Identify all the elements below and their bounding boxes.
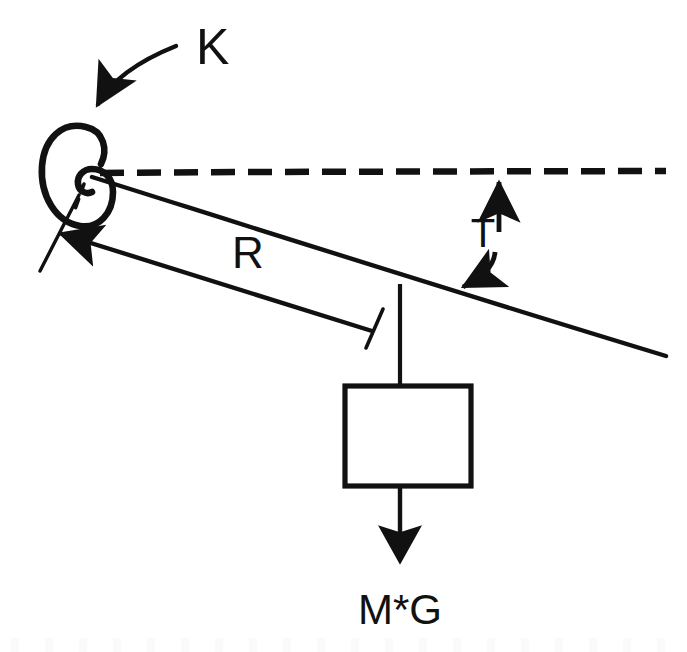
mass-block-group bbox=[345, 386, 471, 486]
radius-dimension-group: R bbox=[40, 195, 383, 348]
label-angle: T bbox=[471, 211, 495, 255]
dimension-tick-pivot bbox=[40, 195, 79, 271]
mass-block bbox=[345, 386, 471, 486]
angle-arrow-down bbox=[463, 252, 495, 287]
rigid-rod-group bbox=[92, 177, 666, 356]
rigid-rod bbox=[92, 177, 666, 356]
horizontal-reference-line-group bbox=[100, 171, 666, 173]
weight-force-group: M*G bbox=[358, 486, 442, 633]
label-radius: R bbox=[232, 228, 264, 277]
k-callout-group: K bbox=[98, 19, 229, 104]
mechanics-diagram-canvas: K R T M*G bbox=[0, 0, 687, 652]
diagram-root: K R T M*G bbox=[0, 0, 687, 652]
label-weight: M*G bbox=[358, 586, 442, 633]
angle-indicator-group: T bbox=[463, 182, 499, 287]
label-spring-constant: K bbox=[196, 19, 229, 75]
k-callout-arrow bbox=[98, 46, 176, 104]
horizontal-dashed-reference-line bbox=[100, 171, 666, 173]
